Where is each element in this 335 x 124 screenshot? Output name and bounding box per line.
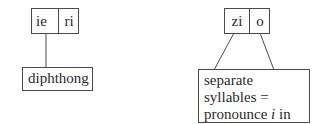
label-line-1: separate syllables = [204,72,304,106]
connector-zi-syllables [214,33,234,70]
label-diphthong: diphthong [22,67,93,91]
connector-o-syllables [260,33,274,70]
cell-o: o [249,9,270,33]
label-line-2: pronounce i in its [204,106,304,124]
cell-ri: ri [58,9,79,33]
cell-zi: zi [225,9,249,33]
cell-ie: ie [32,9,58,33]
syllable-box-ie-ri: ie ri [31,8,79,34]
label-separate-syllables: separate syllables = pronounce i in its … [198,69,310,123]
syllable-box-zi-o: zi o [224,8,270,34]
